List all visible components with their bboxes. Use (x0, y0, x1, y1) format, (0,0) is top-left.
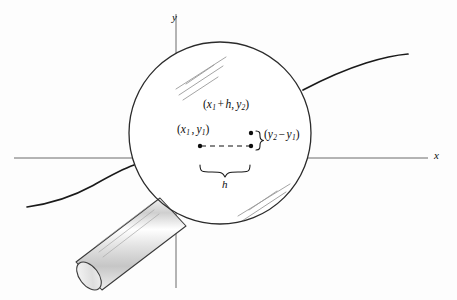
rise-minus-operator: − (279, 128, 286, 140)
x-axis-label: x (434, 150, 439, 161)
point2-x-subscript: 1 (212, 103, 216, 112)
rise-y2-subscript: 2 (273, 133, 277, 142)
data-point-2-marker (249, 131, 253, 135)
rise-close-paren: ) (296, 128, 300, 140)
data-point-1-marker (198, 144, 202, 148)
point2-plus-operator: + (218, 98, 225, 110)
math-figure-magnifying-glass: y x (x1+h,y2) (x1,y1) (y2−y1) h (0, 0, 457, 300)
point1-y-var: y (196, 123, 201, 135)
curve-left-segment (27, 165, 134, 207)
magnifier-handle (72, 198, 186, 294)
point2-comma: , (231, 98, 234, 110)
rise-y1-var: y (287, 128, 292, 140)
point2-close-paren: ) (245, 98, 249, 110)
point1-x-subscript: 1 (186, 128, 190, 137)
point1-label: (x1,y1) (177, 124, 209, 137)
run-corner-marker (249, 144, 253, 148)
point2-y-var: y (236, 98, 241, 110)
point1-comma: , (192, 123, 195, 135)
figure-canvas (0, 0, 457, 300)
y-axis-label: y (172, 12, 177, 23)
point2-label: (x1+h,y2) (203, 99, 249, 112)
rise-label: (y2−y1) (264, 129, 300, 142)
point1-close-paren: ) (206, 123, 210, 135)
curve-right-segment (303, 54, 408, 90)
run-label: h (222, 179, 228, 190)
